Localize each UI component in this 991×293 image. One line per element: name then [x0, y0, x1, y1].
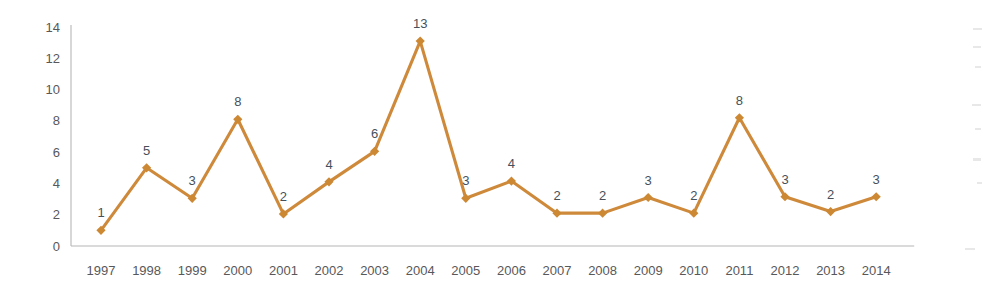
x-axis-tick-label: 2012	[771, 263, 800, 278]
data-point-label: 2	[599, 188, 606, 203]
y-axis-tick-label: 12	[46, 51, 60, 66]
x-axis-tick-label: 1997	[87, 263, 116, 278]
x-axis-tick-label: 2004	[406, 263, 435, 278]
data-point-label: 3	[645, 173, 652, 188]
data-point-label: 3	[462, 173, 469, 188]
x-axis-tick-label: 2013	[816, 263, 845, 278]
y-axis-tick-label: 8	[53, 113, 60, 128]
x-axis-tick-label: 2003	[360, 263, 389, 278]
data-point-label: 8	[736, 93, 743, 108]
x-axis-tick-label: 2008	[588, 263, 617, 278]
x-axis-tick-label: 2014	[862, 263, 891, 278]
y-axis-tick-label: 2	[53, 207, 60, 222]
data-point-label: 2	[827, 187, 834, 202]
x-axis-tick-label: 2006	[497, 263, 526, 278]
data-point-label: 2	[280, 189, 287, 204]
x-axis-tick-label: 2010	[679, 263, 708, 278]
y-axis-tick-label: 0	[53, 239, 60, 254]
x-axis-tick-label: 2011	[725, 263, 753, 278]
data-point-label: 1	[97, 205, 104, 220]
data-point-label: 3	[781, 172, 788, 187]
data-point-label: 3	[189, 173, 196, 188]
data-point-label: 2	[553, 188, 560, 203]
x-axis-tick-label: 2007	[543, 263, 572, 278]
data-point-label: 8	[234, 94, 241, 109]
y-axis-tick-label: 10	[46, 82, 60, 97]
x-axis-tick-label: 1999	[178, 263, 207, 278]
data-point-label: 3	[873, 172, 880, 187]
x-axis-tick-label: 2005	[451, 263, 480, 278]
data-point-label: 2	[690, 188, 697, 203]
y-axis-tick-label: 14	[46, 20, 60, 35]
x-axis-tick-label: 2000	[223, 263, 252, 278]
x-axis-tick-label: 2001	[269, 263, 298, 278]
chart-canvas: 02468101214 1997199819992000200120022003…	[0, 0, 991, 293]
x-axis-tick-label: 1998	[132, 263, 161, 278]
data-point-label: 4	[325, 157, 332, 172]
data-point-label: 13	[413, 16, 427, 31]
data-point-label: 6	[371, 126, 378, 141]
data-point-label: 4	[508, 156, 515, 171]
x-axis-tick-label: 2009	[634, 263, 663, 278]
line-chart: 02468101214 1997199819992000200120022003…	[0, 0, 991, 293]
data-point-label: 5	[143, 143, 150, 158]
x-axis-tick-label: 2002	[315, 263, 344, 278]
y-axis-tick-label: 6	[53, 145, 60, 160]
y-axis-tick-label: 4	[53, 176, 60, 191]
